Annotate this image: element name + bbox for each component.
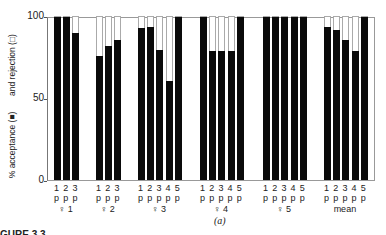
bar [166,16,173,180]
figure-label: GURE 3.3 [0,229,46,235]
acceptance-segment [175,17,182,180]
acceptance-segment [200,17,207,180]
bar [114,16,121,180]
bar [105,16,112,180]
bar [54,16,61,180]
x-tick-label: p [173,194,182,203]
x-tick-label: p [289,194,298,203]
bar [237,16,244,180]
acceptance-segment [209,51,216,180]
group-label: ♀ 1 [46,204,86,214]
x-tick-label: 5 [359,184,368,193]
x-tick-label: p [61,194,70,203]
x-tick-label: 5 [298,184,307,193]
x-tick-label: 3 [112,184,121,193]
bar [272,16,279,180]
acceptance-segment [63,17,70,180]
x-tick-label: 1 [136,184,145,193]
acceptance-segment [352,51,359,180]
bar [63,16,70,180]
acceptance-segment [228,51,235,180]
acceptance-segment [105,46,112,180]
x-tick-label: 1 [261,184,270,193]
acceptance-segment [138,28,145,180]
x-tick-label: p [350,194,359,203]
bar [218,16,225,180]
x-tick-label: p [216,194,225,203]
bar [156,16,163,180]
acceptance-segment [147,27,154,180]
x-tick-label: 2 [103,184,112,193]
x-tick-label: p [331,194,340,203]
bar [300,16,307,180]
group-label: mean [325,204,365,214]
acceptance-segment [361,17,368,180]
x-tick-label: 4 [350,184,359,193]
bar [263,16,270,180]
group-label: ♀ 5 [264,204,304,214]
x-tick-label: p [298,194,307,203]
acceptance-segment [342,40,349,180]
bar [333,16,340,180]
x-tick-label: 1 [52,184,61,193]
acceptance-segment [333,30,340,180]
x-tick-label: 3 [70,184,79,193]
acceptance-segment [54,17,61,180]
x-tick-label: p [270,194,279,203]
ytick-mark-50 [44,99,47,100]
x-tick-label: p [207,194,216,203]
x-tick-label: 1 [198,184,207,193]
x-tick-label: 2 [61,184,70,193]
x-tick-label: p [112,194,121,203]
acceptance-segment [114,40,121,180]
x-tick-label: 2 [145,184,154,193]
ytick-0: 0 [22,174,44,185]
x-tick-label: 3 [154,184,163,193]
x-tick-label: 5 [235,184,244,193]
acceptance-segment [281,17,288,180]
bar [200,16,207,180]
bar [138,16,145,180]
x-tick-label: p [136,194,145,203]
x-tick-label: 2 [331,184,340,193]
x-tick-label: 2 [207,184,216,193]
x-tick-label: 1 [94,184,103,193]
x-tick-label: p [145,194,154,203]
bar [96,16,103,180]
x-tick-label: 3 [216,184,225,193]
bar [361,16,368,180]
acceptance-segment [263,17,270,180]
ytick-mark-100 [44,17,47,18]
bar [342,16,349,180]
acceptance-segment [72,33,79,180]
x-tick-label: p [322,194,331,203]
panel-caption: (a) [214,215,226,226]
acceptance-segment [300,17,307,180]
x-tick-label: 5 [173,184,182,193]
x-tick-label: p [154,194,163,203]
acceptance-segment [166,81,173,180]
x-tick-label: 4 [289,184,298,193]
bar [147,16,154,180]
x-tick-label: p [235,194,244,203]
x-tick-label: p [261,194,270,203]
x-tick-label: 4 [164,184,173,193]
bar [324,16,331,180]
x-tick-label: 3 [279,184,288,193]
x-tick-label: p [359,194,368,203]
acceptance-segment [291,17,298,180]
bar [72,16,79,180]
bar [228,16,235,180]
x-tick-label: p [164,194,173,203]
x-tick-label: p [52,194,61,203]
bar [352,16,359,180]
plot-area [47,17,375,181]
bar [291,16,298,180]
x-tick-label: p [279,194,288,203]
ytick-50: 50 [22,92,44,103]
ytick-mark-0 [44,181,47,182]
acceptance-segment [272,17,279,180]
group-label: ♀ 2 [88,204,128,214]
x-tick-label: p [198,194,207,203]
x-tick-label: 1 [322,184,331,193]
